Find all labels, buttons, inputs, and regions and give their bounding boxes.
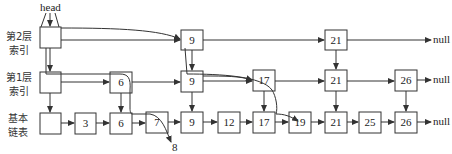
- head-line-right: [55, 13, 59, 27]
- svg-text:3: 3: [83, 117, 89, 129]
- svg-text:索引: 索引: [9, 44, 29, 56]
- base-list-label: 基本 链表: [8, 112, 28, 138]
- svg-text:6: 6: [118, 117, 124, 129]
- level2-null: null: [433, 33, 450, 45]
- level1-null: null: [433, 73, 450, 85]
- svg-text:6: 6: [118, 76, 124, 88]
- level2-head-node: [40, 27, 61, 48]
- svg-text:9: 9: [189, 34, 195, 46]
- base-list-row: 3 6 7 9 12 17 19 21 25 26 null: [40, 112, 450, 134]
- level1-label: 第1层 索引: [6, 71, 32, 97]
- svg-text:25: 25: [365, 116, 377, 128]
- svg-text:索引: 索引: [9, 85, 29, 97]
- svg-text:链表: 链表: [8, 126, 28, 138]
- head-line-left: [41, 13, 46, 27]
- vertical-links: [50, 48, 406, 112]
- svg-text:第1层: 第1层: [6, 71, 32, 83]
- level1-row: 6 9 17 21 26 null: [40, 70, 450, 93]
- svg-text:19: 19: [295, 116, 307, 128]
- svg-text:基本: 基本: [8, 112, 28, 124]
- skip-list-diagram: 第2层 索引 第1层 索引 基本 链表 head 9 21 null 6 9 1: [0, 0, 452, 154]
- svg-text:21: 21: [331, 116, 342, 128]
- level2-label: 第2层 索引: [6, 30, 32, 56]
- level1-head-node: [40, 72, 61, 93]
- level2-row: 9 21 null: [40, 27, 450, 50]
- svg-text:21: 21: [331, 34, 342, 46]
- svg-text:26: 26: [401, 116, 413, 128]
- svg-text:9: 9: [189, 75, 195, 87]
- base-head-node: [40, 113, 61, 134]
- svg-text:12: 12: [224, 116, 235, 128]
- head-label: head: [40, 1, 61, 13]
- svg-text:26: 26: [401, 74, 413, 86]
- insert-value-8: 8: [172, 141, 178, 153]
- svg-text:21: 21: [331, 74, 342, 86]
- base-null: null: [433, 115, 450, 127]
- svg-text:17: 17: [259, 116, 271, 128]
- svg-text:9: 9: [189, 116, 195, 128]
- svg-text:第2层: 第2层: [6, 30, 32, 42]
